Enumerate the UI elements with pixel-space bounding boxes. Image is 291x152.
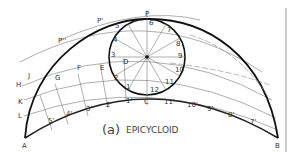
svg-text:5': 5': [48, 117, 54, 125]
svg-text:D: D: [123, 58, 128, 66]
svg-text:B: B: [275, 142, 280, 150]
svg-text:11': 11': [164, 98, 175, 106]
svg-text:P': P': [97, 17, 103, 25]
svg-text:9': 9': [207, 105, 213, 113]
svg-text:10: 10: [175, 66, 184, 74]
svg-text:7': 7': [250, 118, 256, 126]
svg-text:E: E: [100, 64, 104, 72]
svg-text:12: 12: [150, 86, 159, 94]
svg-text:J: J: [27, 72, 30, 80]
svg-text:9: 9: [178, 52, 182, 60]
svg-text:K: K: [18, 98, 23, 106]
construction-arcs: [20, 16, 278, 131]
svg-text:6: 6: [149, 19, 154, 27]
svg-text:1: 1: [126, 83, 130, 91]
svg-text:F: F: [77, 64, 81, 72]
epicycloid-diagram: P P' P'' C A B D E F G H J K L 5 6 7 8 9…: [0, 0, 291, 152]
svg-text:8: 8: [176, 40, 180, 48]
diagram-canvas: P P' P'' C A B D E F G H J K L 5 6 7 8 9…: [0, 0, 291, 152]
caption-prefix: (a): [102, 122, 120, 137]
svg-text:G: G: [55, 74, 60, 82]
svg-text:8': 8': [228, 111, 234, 119]
svg-text:C: C: [144, 98, 149, 106]
svg-text:2: 2: [114, 74, 118, 82]
svg-text:5: 5: [115, 22, 119, 30]
caption-title: EPICYCLOID: [126, 125, 179, 135]
svg-text:P'': P'': [58, 37, 66, 45]
svg-text:A: A: [22, 142, 27, 150]
svg-text:H: H: [16, 81, 21, 89]
svg-text:11: 11: [165, 78, 174, 86]
svg-text:P: P: [145, 10, 149, 18]
circle-center: [145, 55, 149, 59]
svg-text:3: 3: [111, 51, 115, 59]
svg-text:10': 10': [187, 101, 198, 109]
svg-text:2': 2': [106, 101, 112, 109]
svg-text:7: 7: [167, 26, 171, 34]
svg-text:3': 3': [86, 105, 92, 113]
svg-text:1': 1': [126, 97, 132, 105]
svg-text:4: 4: [113, 36, 118, 44]
svg-text:L: L: [18, 112, 22, 120]
svg-text:4': 4': [66, 110, 72, 118]
